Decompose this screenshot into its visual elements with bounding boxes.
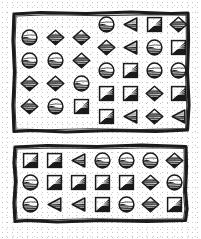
shaded-square-icon <box>142 13 166 36</box>
shaded-circle-icon <box>16 26 42 49</box>
shaded-diamond-icon <box>142 82 166 105</box>
shaded-diamond-icon <box>68 26 94 49</box>
shaded-diamond-icon <box>166 13 190 36</box>
shaded-square-icon <box>118 82 142 105</box>
shaded-diamond-icon <box>162 149 186 171</box>
shaded-square-icon <box>118 59 142 82</box>
top-panel <box>11 10 191 134</box>
shaded-square-icon <box>114 171 138 193</box>
shaded-diamond-icon <box>16 72 42 95</box>
shaded-diamond-icon <box>94 36 118 59</box>
shaded-circle-icon <box>18 171 42 193</box>
shaded-square-icon <box>94 105 118 128</box>
shaded-square-icon <box>94 82 118 105</box>
shaded-square-icon <box>162 193 186 215</box>
shaded-circle-icon <box>42 95 68 118</box>
shaded-left-triangle-icon <box>66 193 90 215</box>
shaded-square-icon <box>90 171 114 193</box>
shaded-circle-icon <box>138 149 162 171</box>
shaded-square-icon <box>66 171 90 193</box>
shaded-diamond-icon <box>68 49 94 72</box>
shaded-diamond-icon <box>42 72 68 95</box>
shaded-square-icon <box>90 193 114 215</box>
shaded-circle-icon <box>90 149 114 171</box>
shaded-left-triangle-icon <box>118 105 142 128</box>
shaded-left-triangle-icon <box>66 149 90 171</box>
shaded-circle-icon <box>94 59 118 82</box>
shaded-circle-icon <box>68 72 94 95</box>
shaded-square-icon <box>68 95 94 118</box>
top-right-shape-grid <box>94 13 190 128</box>
shaded-diamond-icon <box>42 26 68 49</box>
shaded-left-triangle-icon <box>118 36 142 59</box>
shaded-square-icon <box>166 36 190 59</box>
shaded-circle-icon <box>114 149 138 171</box>
shaded-square-icon <box>166 82 190 105</box>
shaded-diamond-icon <box>16 95 42 118</box>
top-left-shape-grid <box>16 26 94 118</box>
shaded-diamond-icon <box>138 171 162 193</box>
shaded-circle-icon <box>142 36 166 59</box>
shaded-circle-icon <box>16 49 42 72</box>
shaded-left-triangle-icon <box>166 105 190 128</box>
shaded-square-icon <box>42 149 66 171</box>
shaded-circle-icon <box>166 59 190 82</box>
shaded-circle-icon <box>42 49 68 72</box>
shaded-circle-icon <box>18 193 42 215</box>
shaded-circle-icon <box>142 59 166 82</box>
shaded-left-triangle-icon <box>118 13 142 36</box>
shaded-left-triangle-icon <box>42 193 66 215</box>
shaded-square-icon <box>42 171 66 193</box>
shape-grid-page <box>0 0 201 239</box>
shaded-diamond-icon <box>138 193 162 215</box>
shaded-circle-icon <box>114 193 138 215</box>
bottom-shape-grid <box>18 149 186 215</box>
shaded-circle-icon <box>162 171 186 193</box>
shaded-diamond-icon <box>142 105 166 128</box>
bottom-panel <box>12 143 189 224</box>
shaded-circle-icon <box>94 13 118 36</box>
shaded-square-icon <box>18 149 42 171</box>
